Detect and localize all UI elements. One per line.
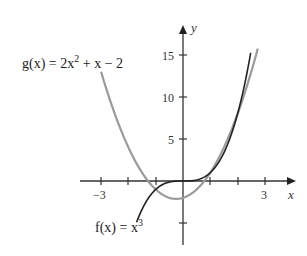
y-axis-arrow-icon — [179, 25, 187, 34]
f-function-label: f(x) = x3 — [95, 217, 143, 236]
y-tick-label-5: 5 — [168, 133, 174, 147]
f-label-main: f(x) = x — [95, 220, 138, 236]
x-tick-label-3: 3 — [261, 188, 267, 202]
y-tick-label-10: 10 — [162, 91, 174, 105]
x-axis-label: x — [287, 187, 294, 202]
g-function-label: g(x) = 2x2 + x − 2 — [22, 53, 123, 72]
f-label-exponent: 3 — [138, 217, 143, 228]
x-tick-label-neg3: −3 — [93, 188, 106, 202]
g-label-rest: + x − 2 — [79, 56, 123, 71]
function-graph: −3 3 15 10 5 x y g(x) = 2x2 + x − 2 f(x)… — [0, 0, 307, 256]
x-axis-arrow-icon — [287, 177, 296, 185]
f-curve — [137, 53, 251, 222]
y-axis-label: y — [189, 20, 197, 35]
g-label-main: g(x) = 2x — [22, 56, 74, 72]
y-tick-label-15: 15 — [162, 49, 174, 63]
